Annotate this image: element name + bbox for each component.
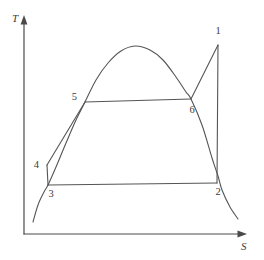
segment-1-2 [217, 45, 218, 183]
state-point-label-3: 3 [48, 188, 53, 199]
segment-6-1 [191, 45, 218, 99]
cycle-process-lines [47, 45, 218, 185]
segment-4-5 [47, 102, 85, 165]
ts-diagram-canvas: T S 123456 [0, 0, 264, 260]
saturation-dome-curve [33, 46, 238, 222]
state-point-label-4: 4 [34, 159, 40, 170]
ts-diagram-figure: T S 123456 [0, 0, 264, 260]
temperature-axis-label: T [12, 12, 19, 24]
axes-group [21, 15, 247, 237]
segment-5-6 [85, 99, 191, 102]
entropy-axis-label: S [241, 240, 247, 252]
state-point-labels: 123456 [34, 25, 221, 199]
state-point-label-2: 2 [215, 186, 220, 197]
entropy-axis-arrowhead [238, 231, 248, 238]
segment-3-2 [48, 183, 217, 185]
temperature-axis-arrowhead [21, 15, 28, 25]
state-point-label-5: 5 [72, 91, 77, 102]
saturation-dome-group [33, 46, 238, 222]
segment-3-4 [47, 165, 48, 185]
state-point-label-1: 1 [215, 25, 220, 36]
state-point-label-6: 6 [189, 104, 194, 115]
